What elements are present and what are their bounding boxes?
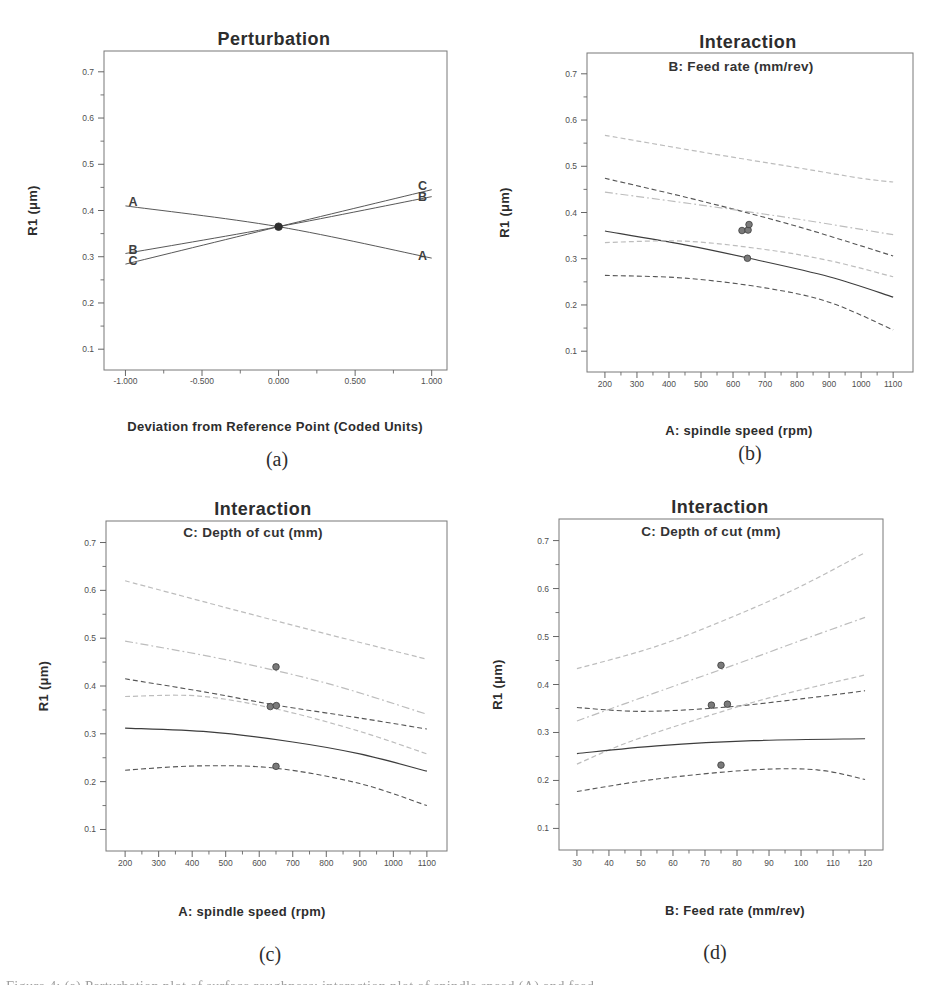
panel-label: (c) [259, 943, 281, 966]
plot-title: Interaction [671, 497, 769, 517]
x-tick-label: 500 [219, 858, 233, 868]
x-tick-label: 0.000 [268, 376, 290, 386]
x-tick-label: 120 [858, 858, 872, 868]
y-tick-label: 0.5 [84, 633, 96, 643]
y-tick-label: 0.6 [565, 115, 577, 125]
plot-title: Interaction [214, 499, 312, 519]
y-tick-label: 0.4 [84, 681, 96, 691]
y-tick-label: 0.3 [82, 252, 94, 262]
x-tick-label: 100 [794, 858, 808, 868]
y-tick-label: 0.3 [84, 729, 96, 739]
design-point [739, 227, 746, 234]
design-point [718, 662, 725, 669]
design-point [724, 701, 731, 708]
y-tick-label: 0.2 [82, 298, 94, 308]
factor-label-C: C [129, 254, 138, 268]
y-tick-label: 0.4 [82, 206, 94, 216]
y-tick-label: 0.2 [537, 775, 549, 785]
y-tick-label: 0.7 [565, 69, 577, 79]
y-tick-label: 0.7 [537, 536, 549, 546]
x-axis-label: Deviation from Reference Point (Coded Un… [127, 419, 423, 434]
plot-title: Perturbation [217, 29, 330, 49]
curve-high-level-mean [577, 617, 865, 721]
x-tick-label: 30 [572, 858, 582, 868]
plot-svg-b: 0.10.20.30.40.50.60.72003004005006007008… [469, 0, 938, 472]
x-tick-label: 300 [152, 858, 166, 868]
curve-low-level-upper-ci [577, 691, 865, 712]
x-tick-label: 110 [826, 858, 840, 868]
x-tick-label: 80 [732, 858, 742, 868]
design-point [273, 763, 280, 770]
x-tick-label: -0.500 [190, 376, 214, 386]
y-tick-label: 0.4 [537, 680, 549, 690]
y-tick-label: 0.1 [84, 824, 96, 834]
y-tick-label: 0.6 [537, 584, 549, 594]
x-tick-label: 200 [118, 858, 132, 868]
y-tick-label: 0.3 [565, 254, 577, 264]
design-point [273, 664, 280, 671]
y-tick-label: 0.1 [565, 346, 577, 356]
y-tick-label: 0.3 [537, 727, 549, 737]
design-point [718, 762, 725, 769]
design-point [267, 703, 274, 710]
factor-label-A: A [129, 195, 138, 209]
curve-low-level-lower-ci [577, 769, 865, 792]
panel-label: (d) [703, 941, 726, 964]
x-tick-label: 50 [636, 858, 646, 868]
y-axis-label: R1 (μm) [36, 661, 51, 712]
x-tick-label: 0.500 [344, 376, 366, 386]
x-tick-label: 300 [630, 379, 644, 389]
x-tick-label: 1100 [884, 379, 903, 389]
x-tick-label: 800 [319, 858, 333, 868]
factor-label-A: A [418, 249, 427, 263]
design-point [746, 221, 753, 228]
plot-subtitle: C: Depth of cut (mm) [183, 525, 322, 540]
y-axis-label: R1 (μm) [25, 185, 40, 236]
y-tick-label: 0.5 [565, 161, 577, 171]
design-point [273, 702, 280, 709]
x-tick-label: 600 [252, 858, 266, 868]
x-tick-label: -1.000 [113, 376, 137, 386]
chart-interaction-d: 0.10.20.30.40.50.60.73040506070809010011… [469, 472, 938, 991]
y-tick-label: 0.2 [565, 300, 577, 310]
curve-low-level-mean [577, 739, 865, 754]
design-point [744, 255, 751, 262]
curve-low-level-lower-ci [125, 766, 427, 806]
design-point [708, 702, 715, 709]
x-axis-label: A: spindle speed (rpm) [665, 423, 812, 438]
y-axis-label: R1 (μm) [490, 659, 505, 710]
x-tick-label: 70 [700, 858, 710, 868]
x-tick-label: 400 [662, 379, 676, 389]
factor-label-B: B [418, 190, 427, 204]
x-tick-label: 90 [764, 858, 774, 868]
x-tick-label: 1000 [384, 858, 403, 868]
plot-subtitle: C: Depth of cut (mm) [641, 524, 780, 539]
x-tick-label: 1100 [418, 858, 437, 868]
x-tick-label: 1.000 [421, 376, 443, 386]
curve-low-level-upper-ci [605, 178, 893, 256]
y-tick-label: 0.7 [82, 67, 94, 77]
plot-title: Interaction [699, 32, 797, 52]
x-tick-label: 700 [286, 858, 300, 868]
x-tick-label: 500 [694, 379, 708, 389]
x-tick-label: 900 [353, 858, 367, 868]
x-tick-label: 900 [822, 379, 836, 389]
y-tick-label: 0.1 [82, 344, 94, 354]
plot-svg-a: 0.10.20.30.40.50.60.7-1.000-0.5000.0000.… [0, 0, 469, 472]
design-point [275, 223, 283, 231]
x-axis-label: A: spindle speed (rpm) [178, 904, 325, 919]
x-tick-label: 200 [598, 379, 612, 389]
x-axis-label: B: Feed rate (mm/rev) [665, 903, 805, 918]
panel-label: (b) [738, 442, 761, 465]
chart-perturbation-a: 0.10.20.30.40.50.60.7-1.000-0.5000.0000.… [0, 0, 469, 472]
plot-svg-c: 0.10.20.30.40.50.60.72003004005006007008… [0, 472, 469, 991]
chart-interaction-c: 0.10.20.30.40.50.60.72003004005006007008… [0, 472, 469, 991]
x-tick-label: 800 [790, 379, 804, 389]
y-tick-label: 0.6 [84, 585, 96, 595]
chart-interaction-b: 0.10.20.30.40.50.60.72003004005006007008… [469, 0, 938, 472]
x-tick-label: 400 [185, 858, 199, 868]
y-tick-label: 0.4 [565, 208, 577, 218]
plot-frame [106, 521, 447, 851]
curve-low-level-lower-ci [605, 275, 893, 330]
y-axis-label: R1 (μm) [497, 187, 512, 238]
